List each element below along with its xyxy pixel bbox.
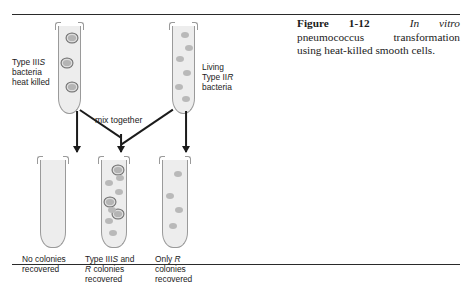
label-line-1: Type IIIS and — [85, 254, 134, 264]
arrow-head — [182, 146, 190, 153]
colony-rough — [175, 207, 183, 213]
figure-caption-number: Figure 1-12 — [297, 17, 370, 29]
label-line-3: recovered — [155, 274, 192, 284]
tube-only-r-colonies — [162, 156, 188, 248]
tube-body — [101, 160, 127, 248]
colony-rough — [175, 84, 183, 90]
tube-body — [162, 160, 188, 248]
colony-rough — [176, 56, 184, 62]
label-line-2: recovered — [22, 264, 66, 274]
colony-smooth — [65, 81, 78, 92]
tube-body — [40, 160, 66, 248]
label-line-3: bacteria — [202, 82, 233, 92]
colony-rough — [181, 32, 189, 38]
label-line-1: Living — [202, 62, 233, 72]
colony-rough — [183, 70, 191, 76]
label-line-1: Only R — [155, 254, 192, 264]
colony-smooth — [111, 165, 124, 176]
tube-body — [58, 26, 81, 114]
colony-rough — [109, 230, 117, 236]
figure-caption-italic-lead: In vitro — [410, 17, 460, 29]
arrow-left — [72, 111, 82, 152]
tube-s-and-r-colonies — [101, 156, 127, 248]
colony-rough — [108, 207, 116, 213]
label-line-2: Type IIR — [202, 72, 233, 82]
label-living-r: Living Type IIR bacteria — [202, 62, 233, 93]
figure-caption-body: pneumococcus transformation using heat-k… — [297, 31, 460, 57]
colony-rough — [166, 193, 174, 199]
colony-smooth — [103, 196, 116, 207]
colony-rough — [182, 96, 190, 102]
tube-no-colonies — [40, 156, 66, 248]
figure-diagram: Type IIIS bacteria heat killed Living Ty… — [0, 14, 285, 264]
label-no-colonies: No colonies recovered — [22, 254, 66, 274]
label-line-1: Type IIIS — [12, 57, 50, 67]
label-heat-killed-s: Type IIIS bacteria heat killed — [12, 57, 50, 88]
colony-rough — [105, 180, 113, 186]
label-s-and-r-colonies: Type IIIS and R colonies recovered — [85, 254, 134, 285]
label-line-2: R colonies — [85, 264, 134, 274]
colony-rough — [174, 171, 182, 177]
arrow-head — [117, 146, 125, 153]
tube-body — [172, 26, 195, 114]
tube-heat-killed-s — [58, 22, 81, 114]
arrow-right — [181, 111, 191, 152]
arrow-head — [73, 146, 81, 153]
bottom-divider-rule — [12, 264, 460, 265]
label-line-1: No colonies — [22, 254, 66, 264]
label-line-2: colonies — [155, 264, 192, 274]
colony-rough — [105, 218, 113, 224]
figure-caption: Figure 1-12 In vitro pneumococcus transf… — [297, 17, 460, 58]
colony-rough — [169, 223, 177, 229]
label-line-2: bacteria — [12, 67, 50, 77]
label-only-r-colonies: Only R colonies recovered — [155, 254, 192, 285]
tube-living-r — [172, 22, 195, 114]
colony-smooth — [66, 33, 79, 44]
colony-rough — [185, 45, 193, 51]
mix-together-label: mix together — [95, 115, 142, 125]
colony-rough — [115, 189, 123, 195]
label-line-3: heat killed — [12, 77, 50, 87]
label-line-3: recovered — [85, 274, 134, 284]
colony-smooth — [60, 57, 73, 68]
arrow-middle — [116, 134, 126, 152]
colony-rough — [116, 175, 124, 181]
